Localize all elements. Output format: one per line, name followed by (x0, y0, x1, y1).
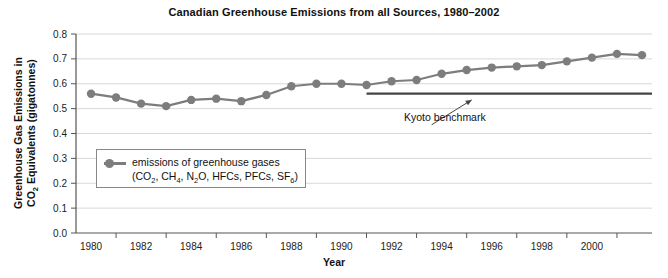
data-point (563, 57, 571, 65)
data-point (437, 70, 445, 78)
x-tick-labels: 1980198219841986198819901992199419961998… (80, 241, 604, 252)
x-tick-label: 1990 (330, 241, 353, 252)
x-tick-label: 1982 (130, 241, 153, 252)
data-point (613, 50, 621, 58)
legend-marker-icon (104, 157, 126, 169)
x-tick-label: 1980 (80, 241, 103, 252)
data-point (312, 80, 320, 88)
y-tick-label: 0.7 (53, 53, 67, 64)
x-tick-label: 1996 (481, 241, 504, 252)
chart-figure: Canadian Greenhouse Emissions from all S… (0, 0, 668, 278)
x-tick-marks (116, 233, 617, 238)
x-tick-label: 2000 (581, 241, 604, 252)
data-point (87, 90, 95, 98)
legend-line-1: emissions of greenhouse gases (132, 156, 280, 168)
data-point (412, 76, 420, 84)
plot-area: 0.00.10.20.30.40.50.60.70.8 198019821984… (0, 0, 668, 278)
data-point (387, 77, 395, 85)
y-tick-label: 0.5 (53, 103, 67, 114)
data-point (212, 94, 220, 102)
data-point (287, 82, 295, 90)
data-point (162, 102, 170, 110)
data-point (638, 51, 646, 59)
data-point (237, 97, 245, 105)
x-tick-label: 1988 (280, 241, 303, 252)
data-point (538, 61, 546, 69)
y-tick-label: 0.3 (53, 153, 67, 164)
x-tick-label: 1986 (230, 241, 253, 252)
kyoto-benchmark-label: Kyoto benchmark (404, 111, 486, 123)
data-point (488, 63, 496, 71)
data-point (588, 53, 596, 61)
y-tick-label: 0.2 (53, 178, 67, 189)
legend-text: emissions of greenhouse gases (CO2, CH4,… (132, 155, 298, 188)
legend: emissions of greenhouse gases (CO2, CH4,… (96, 149, 306, 188)
y-tick-label: 0.1 (53, 203, 67, 214)
x-tick-label: 1998 (531, 241, 554, 252)
y-tick-label: 0.6 (53, 78, 67, 89)
data-point (462, 66, 470, 74)
data-point (362, 81, 370, 89)
data-point (187, 96, 195, 104)
data-point (137, 99, 145, 107)
data-point (262, 91, 270, 99)
emissions-series-line (91, 54, 642, 106)
kyoto-benchmark-arrowhead (465, 100, 471, 105)
data-point (112, 93, 120, 101)
y-tick-label: 0.8 (53, 29, 67, 40)
y-tick-label: 0.0 (53, 228, 67, 239)
series-line (91, 54, 642, 106)
x-tick-label: 1984 (180, 241, 203, 252)
data-point (513, 62, 521, 70)
legend-line-2: (CO2, CH4, N2O, HFCs, PFCs, SF6) (132, 170, 298, 182)
data-point (337, 80, 345, 88)
y-tick-label: 0.4 (53, 128, 67, 139)
x-tick-label: 1994 (431, 241, 454, 252)
x-tick-label: 1992 (380, 241, 403, 252)
y-tick-marks (71, 34, 76, 233)
y-tick-labels: 0.00.10.20.30.40.50.60.70.8 (53, 29, 67, 239)
